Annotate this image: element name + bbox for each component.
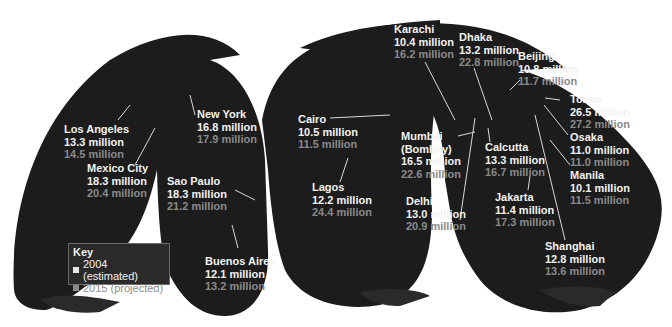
legend-title: Key (73, 246, 165, 258)
pop-2015: 16.7 million (485, 166, 545, 179)
pop-2015: 22.8 million (459, 56, 519, 69)
city-label-buenos-aires: Buenos Aires 12.1 million 13.2 million (205, 255, 276, 293)
city-label-cairo: Cairo 10.5 million 11.5 million (298, 113, 358, 151)
pop-2015: 20.4 million (87, 187, 148, 200)
legend-label: 2004 (estimated) (83, 258, 165, 282)
pop-2015: 22.6 million (401, 168, 461, 181)
city-label-karachi: Karachi 10.4 million 16.2 million (394, 23, 454, 61)
pop-2004: 10.8 million (518, 63, 578, 76)
pop-2004: 13.2 million (459, 44, 519, 57)
pop-2004: 18.3 million (167, 188, 227, 201)
pop-2015: 11.5 million (570, 194, 630, 207)
pop-2015: 27.2 million (570, 118, 630, 131)
city-label-tokyo: Tokyo 26.5 million 27.2 million (570, 93, 630, 131)
pop-2015: 17.3 million (495, 216, 555, 229)
pop-2015: 17.9 million (197, 133, 257, 146)
city-name: Osaka (570, 131, 629, 144)
city-name: Lagos (312, 181, 372, 194)
pop-2015: 11.5 million (298, 138, 358, 151)
city-label-manila: Manila 10.1 million 11.5 million (570, 169, 630, 207)
city-name: Los Angeles (64, 123, 129, 136)
pop-2004: 18.3 million (87, 175, 148, 188)
city-name: Delhi (406, 195, 466, 208)
city-label-beijing: Beijing 10.8 million 11.7 million (518, 50, 578, 88)
city-label-jakarta: Jakarta 11.4 million 17.3 million (495, 191, 555, 229)
legend-label: 2015 (projected) (83, 282, 163, 294)
pop-2015: 11.0 million (570, 156, 629, 169)
pop-2004: 13.3 million (64, 136, 129, 149)
pop-2004: 12.1 million (205, 268, 276, 281)
city-label-calcutta: Calcutta 13.3 million 16.7 million (485, 141, 545, 179)
city-name: Cairo (298, 113, 358, 126)
city-label-new-york: New York 16.8 million 17.9 million (197, 108, 257, 146)
map-legend: Key 2004 (estimated) 2015 (projected) (68, 243, 170, 285)
pop-2004: 13.0 million (406, 208, 466, 221)
city-name: Beijing (518, 50, 578, 63)
city-name: Buenos Aires (205, 255, 276, 268)
pop-2015: 11.7 million (518, 75, 578, 88)
pop-2015: 14.5 million (64, 148, 129, 161)
pop-2004: 13.3 million (485, 154, 545, 167)
pop-2004: 12.2 million (312, 194, 372, 207)
antarctica (40, 296, 120, 313)
pop-2015: 21.2 million (167, 200, 227, 213)
city-name: Karachi (394, 23, 454, 36)
city-name: Manila (570, 169, 630, 182)
city-label-mumbai: Mumbai (Bombay) 16.5 million 22.6 millio… (401, 130, 461, 180)
pop-2004: 10.1 million (570, 182, 630, 195)
pop-2004: 12.8 million (545, 253, 605, 266)
city-label-dhaka: Dhaka 13.2 million 22.8 million (459, 31, 519, 69)
pop-2015: 24.4 million (312, 206, 372, 219)
pop-2004: 11.0 million (570, 144, 629, 157)
city-name: Jakarta (495, 191, 555, 204)
city-label-osaka: Osaka 11.0 million 11.0 million (570, 131, 629, 169)
pop-2015: 20.9 million (406, 220, 466, 233)
legend-item-2004: 2004 (estimated) (73, 258, 165, 282)
city-label-los-angeles: Los Angeles 13.3 million 14.5 million (64, 123, 129, 161)
legend-swatch-light-icon (73, 267, 79, 273)
pop-2015: 13.6 million (545, 265, 605, 278)
city-label-delhi: Delhi 13.0 million 20.9 million (406, 195, 466, 233)
legend-swatch-gray-icon (73, 285, 79, 291)
city-name-line1: Mumbai (401, 130, 461, 143)
city-label-shanghai: Shanghai 12.8 million 13.6 million (545, 240, 605, 278)
city-name: Shanghai (545, 240, 605, 253)
pop-2004: 10.5 million (298, 126, 358, 139)
city-label-lagos: Lagos 12.2 million 24.4 million (312, 181, 372, 219)
city-label-sao-paulo: Sao Paulo 18.3 million 21.2 million (167, 175, 227, 213)
city-name: Tokyo (570, 93, 630, 106)
city-name-line2: (Bombay) (401, 143, 461, 156)
pop-2004: 10.4 million (394, 36, 454, 49)
pop-2004: 16.8 million (197, 121, 257, 134)
city-name: Dhaka (459, 31, 519, 44)
pop-2004: 11.4 million (495, 204, 555, 217)
city-name: Calcutta (485, 141, 545, 154)
city-name: Mexico City (87, 162, 148, 175)
city-label-mexico-city: Mexico City 18.3 million 20.4 million (87, 162, 148, 200)
pop-2004: 26.5 million (570, 106, 630, 119)
city-name: Sao Paulo (167, 175, 227, 188)
pop-2004: 16.5 million (401, 155, 461, 168)
city-name: New York (197, 108, 257, 121)
legend-item-2015: 2015 (projected) (73, 282, 165, 294)
pop-2015: 16.2 million (394, 48, 454, 61)
pop-2015: 13.2 million (205, 280, 276, 293)
